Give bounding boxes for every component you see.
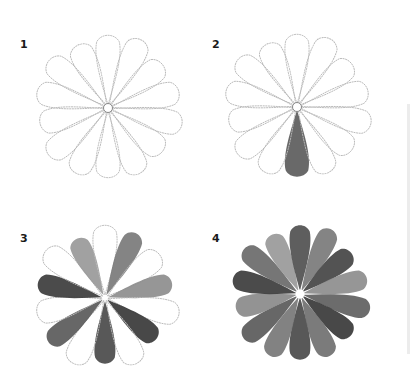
petal	[292, 54, 359, 114]
petal	[103, 55, 170, 115]
flower-illustrations	[0, 0, 411, 388]
page-edge-divider	[407, 104, 410, 354]
petal	[96, 35, 120, 105]
flower-step-3	[34, 225, 181, 368]
petal	[96, 111, 120, 178]
petal	[285, 34, 309, 104]
flower-center	[104, 104, 113, 113]
petal	[285, 110, 309, 177]
flower-center	[293, 103, 302, 112]
flower-step-1	[34, 35, 184, 179]
flower-center	[296, 290, 305, 299]
flower-step-4	[231, 225, 373, 361]
flower-center	[103, 296, 107, 300]
flower-step-2	[223, 34, 373, 178]
